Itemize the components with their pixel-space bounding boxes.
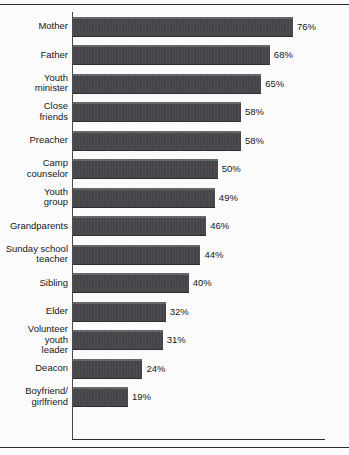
bar-row: Closefriends58% bbox=[0, 98, 349, 127]
bar-value-label: 19% bbox=[128, 383, 151, 412]
bar-category-label: Elder bbox=[0, 297, 68, 326]
bar-category-label: Campcounselor bbox=[0, 155, 68, 184]
bar-row: Sunday schoolteacher44% bbox=[0, 240, 349, 269]
bar-category-label-line: Deacon bbox=[35, 363, 68, 374]
bar-category-label: Boyfriend/girlfriend bbox=[0, 383, 68, 412]
bar-value-label: 31% bbox=[163, 326, 186, 355]
x-axis-baseline bbox=[72, 439, 325, 440]
bar-category-label-line: Mother bbox=[38, 21, 68, 32]
bar-row: Youthminister65% bbox=[0, 69, 349, 98]
bar-category-label: Grandparents bbox=[0, 212, 68, 241]
page-bottom-rule bbox=[0, 447, 349, 448]
bar-category-label-line: girlfriend bbox=[32, 397, 68, 408]
chart-page: Mother76%Father68%Youthminister65%Closef… bbox=[0, 0, 349, 455]
bar bbox=[73, 102, 241, 122]
bar-chart: Mother76%Father68%Youthminister65%Closef… bbox=[0, 10, 349, 442]
bar-value-label: 32% bbox=[166, 297, 189, 326]
bar bbox=[73, 17, 293, 37]
bar-value-label: 24% bbox=[142, 354, 165, 383]
bar bbox=[73, 387, 128, 407]
bar-row: Volunteeryouthleader31% bbox=[0, 326, 349, 355]
bar-category-label-line: Volunteer bbox=[28, 324, 68, 335]
bar-value-label: 58% bbox=[241, 98, 264, 127]
bar-category-label: Youthgroup bbox=[0, 183, 68, 212]
bar bbox=[73, 131, 241, 151]
bar-row: Youthgroup49% bbox=[0, 183, 349, 212]
bar-value-label: 46% bbox=[206, 212, 229, 241]
bar bbox=[73, 74, 261, 94]
bar-category-label: Sibling bbox=[0, 269, 68, 298]
bar bbox=[73, 273, 189, 293]
bar-category-label-line: Grandparents bbox=[10, 221, 68, 232]
bar-value-label: 65% bbox=[261, 69, 284, 98]
bar bbox=[73, 359, 142, 379]
bar-value-label: 58% bbox=[241, 126, 264, 155]
bar-row: Campcounselor50% bbox=[0, 155, 349, 184]
bar-category-label-line: Father bbox=[41, 50, 68, 61]
bar-row: Mother76% bbox=[0, 12, 349, 41]
bar-category-label-line: Elder bbox=[46, 306, 68, 317]
bar-category-label-line: minister bbox=[35, 83, 68, 94]
bar-category-label: Mother bbox=[0, 12, 68, 41]
bar-value-label: 76% bbox=[293, 12, 316, 41]
page-top-rule bbox=[0, 4, 349, 5]
bar-value-label: 68% bbox=[270, 41, 293, 70]
bar-category-label-line: teacher bbox=[36, 254, 68, 265]
bar-row: Father68% bbox=[0, 41, 349, 70]
bar-category-label-line: counselor bbox=[27, 169, 68, 180]
bar-category-label: Preacher bbox=[0, 126, 68, 155]
bar-value-label: 49% bbox=[215, 183, 238, 212]
bar bbox=[73, 159, 218, 179]
bar-category-label-line: group bbox=[44, 197, 68, 208]
bar-category-label: Youthminister bbox=[0, 69, 68, 98]
bar-row: Deacon24% bbox=[0, 354, 349, 383]
bar-value-label: 50% bbox=[218, 155, 241, 184]
bar bbox=[73, 216, 206, 236]
bar-row: Boyfriend/girlfriend19% bbox=[0, 383, 349, 412]
bar-category-label: Volunteeryouthleader bbox=[0, 326, 68, 355]
bar-value-label: 40% bbox=[189, 269, 212, 298]
bar-row: Elder32% bbox=[0, 297, 349, 326]
bar-value-label: 44% bbox=[200, 240, 223, 269]
bar-category-label: Closefriends bbox=[0, 98, 68, 127]
bar-category-label: Father bbox=[0, 41, 68, 70]
bar bbox=[73, 302, 166, 322]
bar bbox=[73, 188, 215, 208]
bar bbox=[73, 45, 270, 65]
bar-row: Preacher58% bbox=[0, 126, 349, 155]
bar-category-label: Deacon bbox=[0, 354, 68, 383]
bar-category-label-line: Preacher bbox=[29, 135, 68, 146]
bar-row: Sibling40% bbox=[0, 269, 349, 298]
bar-row: Grandparents46% bbox=[0, 212, 349, 241]
bar bbox=[73, 330, 163, 350]
bar-category-label-line: friends bbox=[39, 112, 68, 123]
bar bbox=[73, 245, 200, 265]
bar-category-label: Sunday schoolteacher bbox=[0, 240, 68, 269]
bar-category-label-line: Sibling bbox=[39, 278, 68, 289]
